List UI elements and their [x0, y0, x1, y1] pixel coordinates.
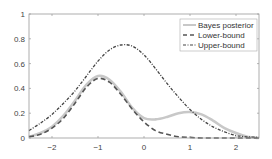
- y-tick-label: 1: [21, 10, 26, 19]
- y-tick-label: 0.8: [14, 35, 26, 44]
- plot-lines: [29, 45, 259, 138]
- x-tick-label: 0: [142, 143, 147, 152]
- legend: Bayes posterior Lower-bound Upper-bound: [180, 19, 257, 51]
- x-tick-label: 2: [234, 143, 239, 152]
- line-chart: −2−1012 00.20.40.60.81 Bayes posterior L…: [0, 0, 272, 159]
- y-tick-label: 0.6: [14, 60, 26, 69]
- legend-label-upper: Upper-bound: [198, 41, 245, 50]
- legend-label-bayes: Bayes posterior: [198, 21, 254, 30]
- series-upper-bound: [29, 45, 259, 138]
- y-tick-label: 0.2: [14, 109, 26, 118]
- x-tick-label: 1: [188, 143, 193, 152]
- x-tick-label: −2: [47, 143, 57, 152]
- y-tick-label: 0.4: [14, 84, 26, 93]
- series-bayes-posterior: [29, 76, 259, 138]
- y-tick-label: 0: [21, 134, 26, 143]
- x-tick-label: −1: [93, 143, 103, 152]
- legend-label-lower: Lower-bound: [198, 31, 245, 40]
